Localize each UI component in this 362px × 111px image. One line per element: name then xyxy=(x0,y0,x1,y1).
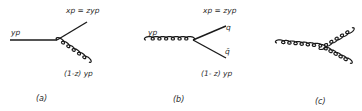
panel-a-outgoing-gluon-label: (1-z) yp xyxy=(64,70,93,78)
panel-b-caption: (b) xyxy=(173,96,184,104)
panel-a-diagram xyxy=(10,22,91,62)
panel-b-incoming-gluon-coil xyxy=(144,37,194,40)
panel-a-incoming-label: yp xyxy=(11,29,20,37)
panel-b-antiquark-symbol: q̄ xyxy=(225,48,230,56)
panel-c-diagram xyxy=(275,28,354,64)
panel-b-outgoing-antiquark-line xyxy=(193,40,226,58)
panel-b-outgoing-quark-line xyxy=(193,26,226,40)
panel-c-outgoing-gluon-coil-lower xyxy=(319,44,352,63)
panel-a-outgoing-gluon-coil xyxy=(56,38,91,63)
panel-b-outgoing-antiquark-momentum-label: (1- z) yp xyxy=(201,70,232,78)
panel-c-outgoing-gluon-coil-upper xyxy=(319,28,354,50)
panel-a-outgoing-quark-label: xp = zyp xyxy=(66,7,99,15)
panel-a-caption: (a) xyxy=(36,95,47,103)
panel-a-outgoing-quark-line xyxy=(57,22,87,40)
panel-c-incoming-gluon-coil xyxy=(275,40,321,47)
panel-b-outgoing-quark-momentum-label: xp = zyp xyxy=(203,7,236,15)
panel-b-quark-symbol: q xyxy=(226,24,231,32)
panel-c-caption: (c) xyxy=(315,98,326,106)
panel-b-incoming-label: yp xyxy=(148,29,157,37)
